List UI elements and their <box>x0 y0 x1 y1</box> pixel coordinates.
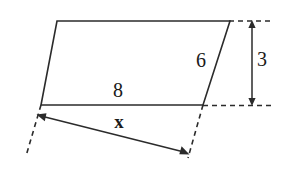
label-unknown-x: x <box>114 111 124 132</box>
parallelogram-diagram-svg: 6 8 3 x <box>0 0 283 186</box>
label-height: 3 <box>257 48 267 70</box>
label-side-right: 6 <box>196 49 206 71</box>
label-base-top: 8 <box>113 79 123 101</box>
geometry-figure: 6 8 3 x <box>0 0 283 186</box>
